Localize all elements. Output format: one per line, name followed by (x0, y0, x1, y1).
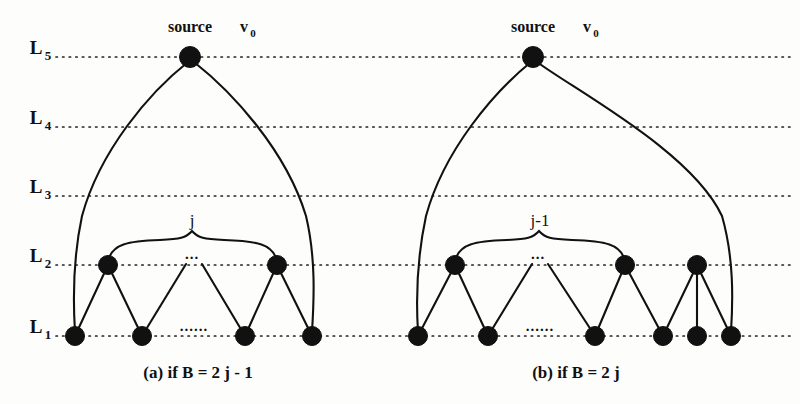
panel-b-edge-dangling-right (548, 264, 595, 336)
panel-b-ellipsis-lower: ...... (526, 318, 555, 334)
panel-a-source-label: source (168, 18, 212, 35)
figure-root: L 5 L 4 L 3 L 2 L 1 (0, 0, 800, 404)
panel-b-node-L1[interactable] (688, 327, 707, 346)
panel-a-source-left-curve (74, 62, 188, 332)
panel-b-caption: (b) if B = 2 j (532, 363, 620, 382)
panel-b: source v 0 j-1 ... ...... (b) if B = 2 j (409, 18, 741, 382)
panel-a-node-L2[interactable] (268, 256, 287, 275)
panel-b-source-left-curve (417, 62, 531, 332)
panel-a-source-node[interactable] (180, 47, 201, 68)
panel-a-node-L1[interactable] (303, 327, 322, 346)
panel-b-edge (663, 265, 697, 336)
panel-b-source-vertex-subscript: 0 (593, 27, 599, 39)
level-label-L5-subscript: 5 (45, 48, 52, 63)
panel-b-edge (625, 265, 663, 336)
panel-b-edge (697, 265, 731, 336)
panel-b-node-L2[interactable] (446, 256, 465, 275)
panel-b-node-L1[interactable] (409, 327, 428, 346)
level-label-L4-base: L (30, 107, 43, 128)
panel-b-edge (595, 265, 625, 336)
level-label-L1-subscript: 1 (45, 327, 52, 342)
panel-b-node-L1[interactable] (586, 327, 605, 346)
panel-a-node-L1[interactable] (236, 327, 255, 346)
panel-a-edge (75, 265, 108, 336)
panel-b-node-L1[interactable] (654, 327, 673, 346)
panel-a-caption: (a) if B = 2 j - 1 (143, 363, 252, 382)
panel-a: source v 0 j ... ...... (a) if B = 2 j -… (66, 18, 322, 382)
panel-a-source-vertex-label: v (240, 18, 248, 35)
level-label-L5-base: L (30, 37, 43, 58)
figure-canvas: L 5 L 4 L 3 L 2 L 1 (0, 0, 800, 404)
panel-a-edge-dangling-right (202, 264, 245, 336)
panel-b-source-label: source (511, 18, 555, 35)
panel-a-ellipsis-lower: ...... (180, 318, 209, 334)
panel-b-brace-label: j-1 (530, 211, 550, 230)
panel-b-source-vertex-label: v (583, 18, 591, 35)
panel-b-source-node[interactable] (523, 47, 544, 68)
panel-b-edges (418, 264, 731, 336)
panel-b-node-L1[interactable] (722, 327, 741, 346)
panel-b-node-L2[interactable] (688, 256, 707, 275)
panel-a-node-L1[interactable] (133, 327, 152, 346)
panel-a-node-L1[interactable] (66, 327, 85, 346)
level-label-L3-subscript: 3 (45, 187, 52, 202)
panel-b-node-L2[interactable] (616, 256, 635, 275)
panel-a-edge (277, 265, 312, 336)
panel-a-source-vertex-subscript: 0 (250, 27, 256, 39)
panel-a-source-right-curve (194, 62, 314, 332)
level-label-L2-base: L (30, 245, 43, 266)
level-label-L4-subscript: 4 (45, 118, 52, 133)
panel-a-brace-label: j (189, 211, 195, 230)
level-label-L3-base: L (30, 176, 43, 197)
panel-b-edge (418, 265, 455, 336)
panel-a-edge (108, 265, 142, 336)
panel-b-node-L1[interactable] (479, 327, 498, 346)
panel-a-edge (245, 265, 277, 336)
level-label-L2-subscript: 2 (45, 256, 52, 271)
panel-a-node-L2[interactable] (99, 256, 118, 275)
level-label-L1-base: L (30, 316, 43, 337)
panel-b-edge (455, 265, 488, 336)
panel-a-ellipsis-upper: ... (185, 246, 199, 262)
level-labels-group: L 5 L 4 L 3 L 2 L 1 (30, 37, 52, 342)
panel-b-ellipsis-upper: ... (531, 246, 545, 262)
